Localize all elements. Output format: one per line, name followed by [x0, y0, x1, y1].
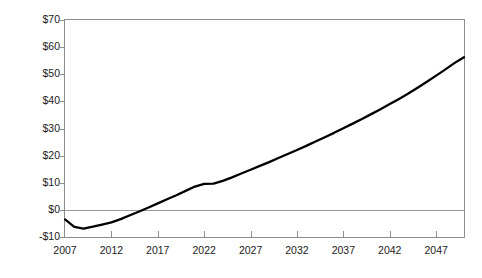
y-axis-tick-label: $40	[20, 95, 60, 106]
y-axis-tick-label: $60	[20, 41, 60, 52]
y-axis-tick-label: $10	[20, 177, 60, 188]
y-axis-tick-label: $30	[20, 123, 60, 134]
y-axis-tick-label: $50	[20, 68, 60, 79]
data-series-line	[65, 20, 464, 237]
y-axis-tick-label: $20	[20, 150, 60, 161]
y-axis-tick-label: $70	[20, 14, 60, 25]
x-axis-tick-label: 2047	[409, 244, 463, 256]
plot-area	[64, 19, 465, 238]
chart-container: Billions of 2006 dollars -$10$0$10$20$30…	[0, 0, 482, 278]
y-axis-tick-label: $0	[20, 204, 60, 215]
y-axis-tick-label: -$10	[20, 231, 60, 242]
